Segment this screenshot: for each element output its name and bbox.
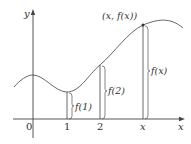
tick-label-1: 1	[64, 121, 70, 132]
brace-f2-icon	[102, 66, 107, 119]
height-label-fx: f(x)	[150, 65, 168, 76]
function-curve	[14, 20, 183, 92]
height-label-f2: f(2)	[107, 85, 125, 96]
function-graph: y x 0 1 2 x (x, f(x)) f(1) f(2) f(x)	[0, 0, 191, 144]
point-marker	[142, 24, 145, 27]
brace-f1-icon	[69, 93, 74, 119]
x-axis-label: x	[178, 121, 184, 132]
point-label: (x, f(x))	[102, 10, 137, 21]
y-axis-arrow-icon	[31, 9, 35, 15]
y-axis-label: y	[23, 8, 30, 19]
tick-label-2: 2	[97, 121, 103, 132]
origin-label: 0	[26, 121, 32, 132]
height-label-f1: f(1)	[74, 101, 92, 112]
tick-label-x: x	[140, 121, 146, 132]
brace-fx-icon	[145, 26, 150, 119]
